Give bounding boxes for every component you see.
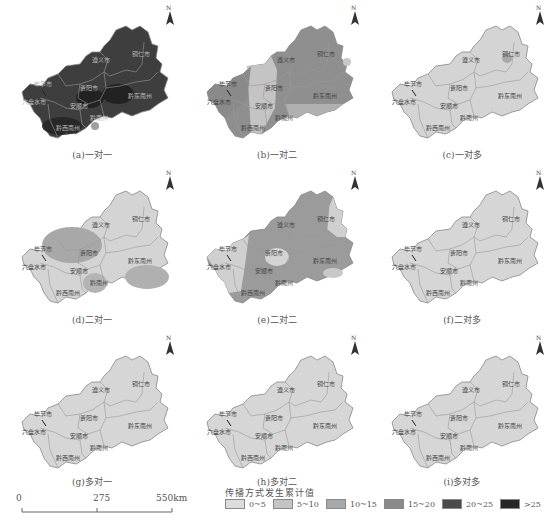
region-label-qiandongnan: 黔东南州 [498, 257, 522, 265]
region-label-guiyang: 贵阳市 [450, 84, 468, 92]
legend-title: 传播方式发生累计值 [225, 486, 315, 499]
region-label-liupanshui: 六盘水市 [22, 98, 46, 106]
region-label-bijie: 毕节市 [219, 80, 237, 88]
legend-item: 5~10 [273, 499, 319, 509]
region-label-guiyang: 贵阳市 [265, 84, 283, 92]
region-label-bijie: 毕节市 [219, 245, 237, 253]
map-panel-f: 遵义市铜仁市毕节市贵阳市黔东南州六盘水市安顺市黔南州黔西南州 N (f)二对多 [370, 165, 554, 330]
map-panel-g: 遵义市铜仁市毕节市贵阳市黔东南州六盘水市安顺市黔南州黔西南州 N (g)多对一 [0, 330, 184, 495]
region-label-liupanshui: 六盘水市 [392, 98, 416, 106]
region-label-guiyang: 贵阳市 [80, 84, 98, 92]
region-label-qiannan: 黔南州 [275, 444, 293, 452]
north-arrow-icon: N [349, 336, 361, 358]
map-caption: (b)一对二 [185, 148, 369, 161]
region-label-tongren: 铜仁市 [502, 380, 520, 388]
map-panel-a: 遵义市铜仁市毕节市贵阳市黔东南州六盘水市安顺市黔南州黔西南州 N (a)一对一 [0, 0, 184, 165]
map-caption: (g)多对一 [0, 475, 184, 488]
province-map: 遵义市铜仁市毕节市贵阳市黔东南州六盘水市安顺市黔南州黔西南州 [370, 330, 554, 480]
region-label-anshun: 安顺市 [255, 267, 273, 275]
province-map: 遵义市铜仁市毕节市贵阳市黔东南州六盘水市安顺市黔南州黔西南州 [370, 0, 554, 150]
region-label-qianxinan: 黔西南州 [426, 454, 450, 462]
legend: 传播方式发生累计值 0~55~1010~1515~2020~25>25 [222, 486, 554, 526]
region-label-qiannan: 黔南州 [275, 114, 293, 122]
region-label-liupanshui: 六盘水市 [207, 263, 231, 271]
region-label-qiannan: 黔南州 [90, 444, 108, 452]
region-label-qianxinan: 黔西南州 [241, 454, 265, 462]
region-label-zunyi: 遵义市 [462, 56, 480, 64]
legend-item: 20~25 [442, 499, 493, 509]
province-map: 遵义市铜仁市毕节市贵阳市黔东南州六盘水市安顺市黔南州黔西南州 [370, 165, 554, 315]
legend-item: >25 [500, 499, 541, 509]
map-panel-d: 遵义市铜仁市毕节市贵阳市黔东南州六盘水市安顺市黔南州黔西南州 N (d)二对一 [0, 165, 184, 330]
region-label-bijie: 毕节市 [404, 80, 422, 88]
region-label-bijie: 毕节市 [404, 245, 422, 253]
region-label-liupanshui: 六盘水市 [22, 263, 46, 271]
region-label-tongren: 铜仁市 [317, 380, 335, 388]
region-label-qiannan: 黔南州 [275, 279, 293, 287]
legend-swatch [384, 499, 404, 509]
map-caption: (e)二对二 [185, 313, 369, 326]
scale-line [14, 493, 194, 523]
region-label-anshun: 安顺市 [70, 102, 88, 110]
legend-label: 20~25 [466, 500, 493, 509]
region-label-qiannan: 黔南州 [90, 279, 108, 287]
region-label-tongren: 铜仁市 [132, 50, 150, 58]
map-panel-b: 遵义市铜仁市毕节市贵阳市黔东南州六盘水市安顺市黔南州黔西南州 N (b)一对二 [185, 0, 369, 165]
region-label-liupanshui: 六盘水市 [22, 428, 46, 436]
legend-label: 0~5 [249, 500, 266, 509]
region-label-qiannan: 黔南州 [460, 444, 478, 452]
region-label-qiandongnan: 黔东南州 [498, 92, 522, 100]
region-label-anshun: 安顺市 [70, 432, 88, 440]
region-label-zunyi: 遵义市 [462, 386, 480, 394]
province-map: 遵义市铜仁市毕节市贵阳市黔东南州六盘水市安顺市黔南州黔西南州 [185, 165, 369, 315]
region-label-anshun: 安顺市 [440, 102, 458, 110]
region-label-liupanshui: 六盘水市 [392, 428, 416, 436]
region-label-liupanshui: 六盘水市 [392, 263, 416, 271]
region-label-zunyi: 遵义市 [92, 56, 110, 64]
region-label-qianxinan: 黔西南州 [426, 124, 450, 132]
map-caption: (a)一对一 [0, 148, 184, 161]
region-label-anshun: 安顺市 [440, 432, 458, 440]
map-caption: (c)一对多 [370, 148, 554, 161]
region-label-qiandongnan: 黔东南州 [128, 257, 152, 265]
province-map: 遵义市铜仁市毕节市贵阳市黔东南州六盘水市安顺市黔南州黔西南州 [185, 0, 369, 150]
region-label-liupanshui: 六盘水市 [207, 428, 231, 436]
region-label-tongren: 铜仁市 [502, 50, 520, 58]
region-label-zunyi: 遵义市 [92, 221, 110, 229]
region-label-guiyang: 贵阳市 [265, 249, 283, 257]
legend-swatch [225, 499, 245, 509]
north-arrow-icon: N [349, 171, 361, 193]
region-label-qiandongnan: 黔东南州 [128, 422, 152, 430]
north-arrow-icon: N [534, 171, 546, 193]
map-panel-e: 遵义市铜仁市毕节市贵阳市黔东南州六盘水市安顺市黔南州黔西南州 N (e)二对二 [185, 165, 369, 330]
map-panel-i: 遵义市铜仁市毕节市贵阳市黔东南州六盘水市安顺市黔南州黔西南州 N (i)多对多 [370, 330, 554, 495]
region-label-qiandongnan: 黔东南州 [128, 92, 152, 100]
region-label-qiandongnan: 黔东南州 [313, 257, 337, 265]
map-caption: (d)二对一 [0, 313, 184, 326]
region-label-guiyang: 贵阳市 [80, 249, 98, 257]
region-label-guiyang: 贵阳市 [265, 414, 283, 422]
north-arrow-icon: N [534, 336, 546, 358]
legend-swatch [442, 499, 462, 509]
region-label-qianxinan: 黔西南州 [56, 454, 80, 462]
north-arrow-icon: N [534, 6, 546, 28]
province-map: 遵义市铜仁市毕节市贵阳市黔东南州六盘水市安顺市黔南州黔西南州 [0, 0, 184, 150]
region-label-qianxinan: 黔西南州 [241, 289, 265, 297]
region-label-tongren: 铜仁市 [132, 380, 150, 388]
region-label-qiandongnan: 黔东南州 [498, 422, 522, 430]
region-label-qianxinan: 黔西南州 [241, 124, 265, 132]
north-arrow-icon: N [164, 336, 176, 358]
region-label-qiandongnan: 黔东南州 [313, 92, 337, 100]
region-label-zunyi: 遵义市 [92, 386, 110, 394]
map-caption: (f)二对多 [370, 313, 554, 326]
north-arrow-icon: N [164, 171, 176, 193]
legend-item: 0~5 [225, 499, 266, 509]
legend-label: 10~15 [350, 500, 377, 509]
region-label-guiyang: 贵阳市 [80, 414, 98, 422]
legend-label: 15~20 [408, 500, 435, 509]
legend-swatch [500, 499, 520, 509]
region-label-anshun: 安顺市 [440, 267, 458, 275]
region-label-tongren: 铜仁市 [317, 215, 335, 223]
region-label-guiyang: 贵阳市 [450, 414, 468, 422]
legend-label: >25 [524, 500, 541, 509]
